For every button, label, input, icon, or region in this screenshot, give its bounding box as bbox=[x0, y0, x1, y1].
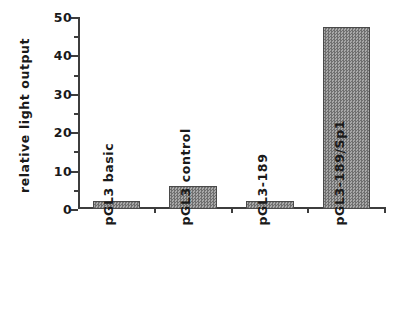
y-tick-label: 50 bbox=[54, 10, 72, 25]
y-tick-mark bbox=[71, 171, 78, 173]
y-tick-label: 0 bbox=[63, 202, 72, 217]
y-tick-label: 10 bbox=[54, 163, 72, 178]
x-tick-mark bbox=[231, 207, 233, 213]
bar bbox=[246, 201, 294, 209]
bar bbox=[323, 27, 371, 209]
x-tick-mark bbox=[307, 207, 309, 213]
y-tick-mark bbox=[71, 209, 78, 211]
y-tick-label: 20 bbox=[54, 125, 72, 140]
x-tick-mark bbox=[384, 207, 386, 213]
y-tick-mark bbox=[74, 190, 78, 192]
x-axis-category-label: pGL3-189/Sp1 bbox=[339, 217, 401, 233]
y-tick-mark bbox=[71, 94, 78, 96]
x-axis-category-label-text: pGL3 control bbox=[178, 128, 193, 225]
y-tick-mark bbox=[71, 17, 78, 19]
y-tick-mark bbox=[74, 36, 78, 38]
bar-chart-figure: relative light output 01020304050 pGL3 b… bbox=[0, 0, 401, 330]
bar bbox=[169, 186, 217, 209]
y-tick-label: 40 bbox=[54, 48, 72, 63]
y-tick-mark bbox=[74, 75, 78, 77]
y-tick-label: 30 bbox=[54, 86, 72, 101]
x-axis-category-label: pGL3-189 bbox=[262, 217, 334, 233]
x-axis-category-label-text: pGL3-189 bbox=[254, 153, 269, 225]
y-tick-mark bbox=[74, 151, 78, 153]
y-axis-title-text: relative light output bbox=[18, 37, 33, 192]
y-tick-mark bbox=[71, 55, 78, 57]
y-tick-mark bbox=[74, 113, 78, 115]
y-axis-title: relative light output bbox=[14, 20, 36, 210]
x-axis-category-label-text: pGL3 basic bbox=[101, 142, 116, 225]
x-tick-mark bbox=[154, 207, 156, 213]
y-tick-mark bbox=[71, 132, 78, 134]
x-axis-category-label-text: pGL3-189/Sp1 bbox=[331, 119, 346, 225]
